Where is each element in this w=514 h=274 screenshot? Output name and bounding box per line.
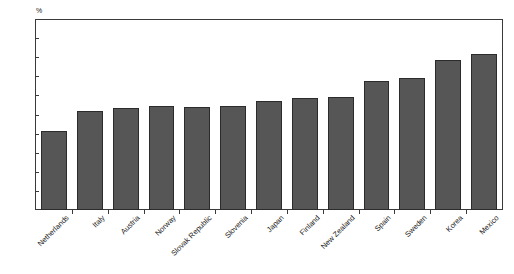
x-axis-tick-mark (179, 210, 180, 214)
x-axis-tick-mark (466, 210, 467, 214)
x-axis-tick-mark (430, 210, 431, 214)
x-axis-tick-mark (108, 210, 109, 214)
chart-figure: % 50454035302520151050 NetherlandsItalyA… (0, 0, 514, 274)
x-axis-tick-label: Sweden (423, 195, 448, 220)
y-axis-tick-mark (35, 57, 39, 58)
x-axis-tick-label: Norway (172, 196, 196, 220)
x-axis-tick-mark (215, 210, 216, 214)
x-axis-tick-label: Austria (136, 197, 158, 219)
x-axis-tick-label: Mexico (495, 197, 514, 219)
x-axis-tick-mark (287, 210, 288, 214)
y-axis-tick-mark (35, 153, 39, 154)
x-axis-tick-label: Netherlands (65, 185, 99, 219)
x-axis-tick-mark (359, 210, 360, 214)
x-axis-tick-mark (72, 210, 73, 214)
x-axis-labels: NetherlandsItalyAustriaNorwaySlovak Repu… (0, 0, 514, 274)
y-axis-tick-mark (35, 134, 39, 135)
y-axis-tick-mark (35, 172, 39, 173)
x-axis-tick-label: Slovenia (244, 194, 270, 220)
x-axis-tick-mark (394, 210, 395, 214)
x-axis-tick-mark (251, 210, 252, 214)
x-axis-tick-label: Korea (459, 200, 479, 220)
y-axis-tick-mark (35, 191, 39, 192)
x-axis-tick-mark (323, 210, 324, 214)
x-axis-tick-label: Finland (316, 197, 339, 220)
x-axis-tick-label: Japan (280, 200, 300, 220)
x-axis-tick-label: New Zealand (351, 183, 388, 220)
x-axis-tick-label: Spain (387, 200, 406, 219)
y-axis-tick-mark (35, 115, 39, 116)
y-axis-tick-mark (35, 38, 39, 39)
y-axis-tick-mark (35, 95, 39, 96)
x-axis-tick-mark (144, 210, 145, 214)
y-axis-tick-mark (35, 76, 39, 77)
